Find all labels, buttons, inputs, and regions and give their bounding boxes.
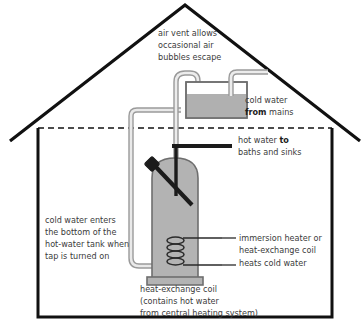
label-cold-water-mains-line-1: cold water — [245, 95, 288, 105]
label-air-vent-line-3: bubbles escape — [158, 52, 221, 62]
label-immersion-heater-line-2: heat-exchange coil — [239, 245, 316, 255]
label-air-vent: air vent allows occasional air bubbles e… — [158, 28, 221, 62]
label-cold-water-in-line-3: hot-water tank when — [45, 239, 129, 249]
label-air-vent-line-1: air vent allows — [158, 28, 217, 38]
label-air-vent-line-2: occasional air — [158, 40, 214, 50]
label-cold-water-in-line-4: tap is turned on — [45, 251, 109, 261]
label-hot-water-out: hot water to baths and sinks — [238, 135, 302, 157]
label-hot-water-out-line-2: baths and sinks — [238, 147, 302, 157]
label-heat-exchange-caption-line-1: heat-exchange coil — [140, 284, 217, 294]
label-immersion-heater: immersion heater or heat-exchange coil h… — [239, 233, 323, 268]
label-hot-water-out-bold: to — [279, 135, 289, 145]
label-cold-water-mains-line-2: from mains — [245, 107, 294, 117]
label-heat-exchange-caption-line-2: (contains hot water — [140, 296, 220, 306]
cold-water-cistern — [186, 82, 247, 118]
label-cold-water-in: cold water enters the bottom of the hot-… — [45, 215, 129, 261]
label-cold-water-in-line-1: cold water enters — [45, 215, 116, 225]
label-cold-water-mains-bold: from — [245, 107, 267, 117]
label-cold-water-in-line-2: the bottom of the — [45, 227, 116, 237]
water-system-diagram: air vent allows occasional air bubbles e… — [0, 0, 361, 331]
label-cold-water-mains: cold water from mains — [245, 95, 294, 117]
cistern-water-level — [187, 94, 246, 117]
label-immersion-heater-line-3: heats cold water — [239, 258, 307, 268]
label-immersion-heater-line-1: immersion heater or — [239, 233, 323, 243]
diagram-canvas: air vent allows occasional air bubbles e… — [0, 0, 361, 331]
label-heat-exchange-caption: heat-exchange coil (contains hot water f… — [140, 284, 258, 318]
label-hot-water-out-line-1: hot water to — [238, 135, 289, 145]
label-cold-water-mains-rest: mains — [267, 107, 294, 117]
leader-lines — [222, 238, 236, 265]
label-hot-water-out-rest: hot water — [238, 135, 279, 145]
label-heat-exchange-caption-line-3: from central heating system) — [140, 308, 258, 318]
